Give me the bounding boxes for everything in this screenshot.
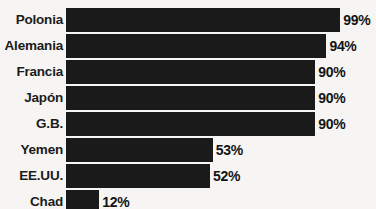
horizontal-bar-chart: Polonia 99% Alemania 94% Francia 90% Jap… (0, 0, 376, 209)
value-label: 90% (318, 117, 345, 131)
category-label: Francia (0, 65, 66, 79)
bar (66, 34, 326, 58)
value-label: 52% (213, 169, 240, 183)
category-label: Chad (0, 195, 66, 209)
value-label: 94% (329, 39, 356, 53)
value-label: 12% (102, 195, 129, 209)
bar (66, 8, 340, 32)
table-row: EE.UU. 52% (0, 164, 376, 188)
bar-track: 94% (66, 34, 376, 58)
table-row: Japón 90% (0, 86, 376, 110)
bar-track: 52% (66, 164, 376, 188)
bar (66, 164, 210, 188)
category-label: G.B. (0, 117, 66, 131)
table-row: Francia 90% (0, 60, 376, 84)
bar-track: 90% (66, 112, 376, 136)
category-label: Alemania (0, 39, 66, 53)
bar-track: 99% (66, 8, 376, 32)
bar-track: 90% (66, 86, 376, 110)
table-row: Yemen 53% (0, 138, 376, 162)
bar (66, 138, 213, 162)
value-label: 99% (343, 13, 370, 27)
table-row: G.B. 90% (0, 112, 376, 136)
bar (66, 112, 315, 136)
bar-track: 53% (66, 138, 376, 162)
table-row: Alemania 94% (0, 34, 376, 58)
value-label: 90% (318, 91, 345, 105)
bar-track: 90% (66, 60, 376, 84)
category-label: Japón (0, 91, 66, 105)
bar (66, 86, 315, 110)
value-label: 53% (216, 143, 243, 157)
table-row: Polonia 99% (0, 8, 376, 32)
value-label: 90% (318, 65, 345, 79)
bar (66, 190, 99, 209)
bar (66, 60, 315, 84)
table-row: Chad 12% (0, 190, 376, 209)
category-label: Polonia (0, 13, 66, 27)
category-label: Yemen (0, 143, 66, 157)
category-label: EE.UU. (0, 169, 66, 183)
bar-track: 12% (66, 190, 376, 209)
